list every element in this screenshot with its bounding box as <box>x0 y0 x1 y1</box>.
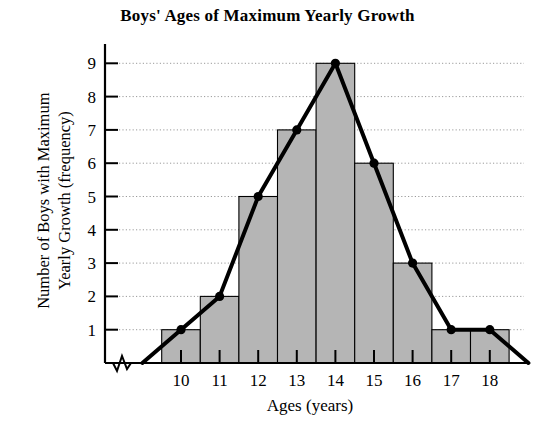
polygon-vertex-dot <box>447 325 456 334</box>
bars-group <box>162 63 509 363</box>
x-tick-labels-group: 101112131415161718 <box>173 371 499 390</box>
polygon-vertex-dot <box>176 325 185 334</box>
y-tick-label: 7 <box>88 121 97 140</box>
x-tick-label: 12 <box>250 371 267 390</box>
polygon-vertex-dot <box>485 325 494 334</box>
x-tick-label: 17 <box>443 371 461 390</box>
y-tick-label: 5 <box>88 188 97 207</box>
histogram-bar <box>239 197 278 364</box>
x-tick-label: 18 <box>481 371 498 390</box>
y-tick-label: 9 <box>88 54 97 73</box>
x-tick-label: 14 <box>327 371 345 390</box>
histogram-bar <box>278 130 317 363</box>
y-tick-labels-group: 123456789 <box>88 54 97 339</box>
plot-area: 123456789 101112131415161718 <box>0 0 535 436</box>
histogram-bar <box>316 63 355 363</box>
x-tick-label: 10 <box>173 371 190 390</box>
y-tick-label: 4 <box>88 221 97 240</box>
polygon-vertex-dot <box>254 192 263 201</box>
y-tick-label: 8 <box>88 88 97 107</box>
polygon-vertex-dot <box>215 292 224 301</box>
histogram-bar <box>393 263 432 363</box>
polygon-vertex-dot <box>292 125 301 134</box>
x-tick-label: 13 <box>288 371 305 390</box>
x-tick-label: 15 <box>366 371 383 390</box>
y-tick-label: 6 <box>88 154 97 173</box>
polygon-vertex-dot <box>369 159 378 168</box>
polygon-vertex-dot <box>331 59 340 68</box>
y-tick-label: 2 <box>88 287 97 306</box>
polygon-vertex-dot <box>408 259 417 268</box>
x-tick-label: 11 <box>211 371 227 390</box>
x-tick-label: 16 <box>404 371 421 390</box>
y-tick-label: 1 <box>88 321 97 340</box>
y-tick-label: 3 <box>88 254 97 273</box>
chart-figure: Boys' Ages of Maximum Yearly Growth Numb… <box>0 0 535 436</box>
